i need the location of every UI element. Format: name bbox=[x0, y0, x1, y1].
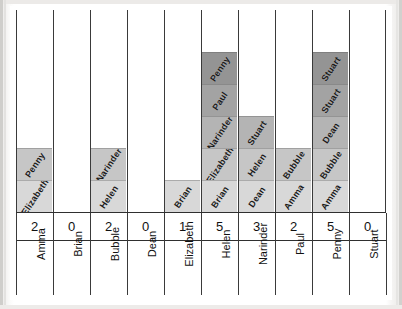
bar-segment[interactable]: Brian bbox=[165, 180, 200, 212]
category-label: Amma bbox=[35, 228, 47, 260]
bar-segment[interactable]: Paul bbox=[202, 84, 237, 116]
bar-segment[interactable]: Narinder bbox=[91, 148, 126, 180]
bar-stack: BrianElizabethNarinderPaulPenny bbox=[202, 52, 237, 212]
plot-area: ElizabethPennyHelenNarinderBrianBrianEli… bbox=[16, 10, 386, 212]
bar-segment-label: Penny bbox=[23, 150, 47, 179]
bar-segment[interactable]: Penny bbox=[17, 148, 52, 180]
bar-segment-label: Bubble bbox=[280, 149, 306, 180]
bar-segment[interactable]: Elizabeth bbox=[202, 148, 237, 180]
bar-segment-label: Helen bbox=[97, 183, 120, 210]
bar-segment[interactable]: Penny bbox=[202, 52, 237, 84]
category-label: Bubble bbox=[109, 227, 121, 261]
bar-segment[interactable]: Helen bbox=[91, 180, 126, 212]
bar-segment-label: Dean bbox=[320, 120, 341, 145]
bar-column[interactable]: BrianElizabethNarinderPaulPenny bbox=[201, 10, 238, 212]
counts-divider bbox=[386, 213, 387, 240]
category-cell[interactable]: Elizabeth bbox=[164, 240, 201, 298]
stacked-bar-chart: ElizabethPennyHelenNarinderBrianBrianEli… bbox=[10, 6, 392, 300]
category-cell[interactable]: Bubble bbox=[90, 240, 127, 298]
column-divider bbox=[385, 10, 386, 212]
bar-column[interactable]: AmmaBubble bbox=[275, 10, 312, 212]
bar-segment-label: Helen bbox=[245, 151, 268, 178]
bar-stack: AmmaBubbleDeanStuartStuart bbox=[313, 52, 348, 212]
bar-segment[interactable]: Helen bbox=[239, 148, 274, 180]
screenshot-page: ElizabethPennyHelenNarinderBrianBrianEli… bbox=[0, 0, 402, 309]
bar-segment-label: Amma bbox=[318, 182, 342, 211]
category-label: Stuart bbox=[368, 229, 380, 258]
category-label: Elizabeth bbox=[183, 221, 195, 266]
bar-column[interactable]: ElizabethPenny bbox=[16, 10, 53, 212]
bar-segment[interactable]: Stuart bbox=[313, 84, 348, 116]
bar-segment-label: Stuart bbox=[319, 54, 343, 82]
category-cell[interactable]: Helen bbox=[201, 240, 238, 298]
category-cell[interactable]: Paul bbox=[275, 240, 312, 298]
bar-segment-label: Narinder bbox=[205, 116, 235, 148]
scan-edge-top bbox=[0, 0, 402, 4]
category-cell[interactable]: Dean bbox=[127, 240, 164, 298]
category-cell[interactable]: Amma bbox=[16, 240, 53, 298]
bar-segment[interactable]: Dean bbox=[239, 180, 274, 212]
bar-segment-label: Elizabeth bbox=[204, 148, 235, 180]
bar-segment[interactable]: Bubble bbox=[276, 148, 311, 180]
bar-segment[interactable]: Stuart bbox=[239, 116, 274, 148]
bar-segment[interactable]: Narinder bbox=[202, 116, 237, 148]
category-label: Brian bbox=[72, 231, 84, 257]
bar-column[interactable]: Brian bbox=[164, 10, 201, 212]
category-label: Narinder bbox=[257, 223, 269, 265]
bar-segment-label: Stuart bbox=[319, 86, 343, 114]
bar-column[interactable]: AmmaBubbleDeanStuartStuart bbox=[312, 10, 349, 212]
bar-segment[interactable]: Dean bbox=[313, 116, 348, 148]
column-divider bbox=[349, 10, 350, 212]
scan-edge-bottom bbox=[0, 305, 402, 309]
bar-column[interactable]: DeanHelenStuart bbox=[238, 10, 275, 212]
bar-stack: HelenNarinder bbox=[91, 148, 126, 212]
bar-column[interactable] bbox=[127, 10, 164, 212]
category-cell[interactable]: Narinder bbox=[238, 240, 275, 298]
scan-edge-left-inner bbox=[4, 0, 6, 309]
bar-segment-label: Brian bbox=[209, 184, 231, 210]
bar-column[interactable] bbox=[349, 10, 386, 212]
category-label: Paul bbox=[294, 233, 306, 255]
bar-segment[interactable]: Bubble bbox=[313, 148, 348, 180]
category-label: Dean bbox=[146, 231, 158, 257]
column-divider bbox=[53, 10, 54, 212]
category-cell[interactable]: Penny bbox=[312, 240, 349, 298]
bar-segment-label: Elizabeth bbox=[19, 180, 50, 212]
column-divider bbox=[127, 10, 128, 212]
bar-segment-label: Dean bbox=[246, 184, 267, 209]
bar-stack: Brian bbox=[165, 180, 200, 212]
category-cell[interactable]: Stuart bbox=[349, 240, 386, 298]
bar-segment[interactable]: Elizabeth bbox=[17, 180, 52, 212]
category-label: Penny bbox=[331, 228, 343, 259]
category-divider bbox=[386, 240, 387, 295]
bar-segment-label: Narinder bbox=[94, 148, 124, 180]
bar-stack: AmmaBubble bbox=[276, 148, 311, 212]
bar-segment-label: Paul bbox=[210, 89, 229, 111]
bar-column[interactable]: HelenNarinder bbox=[90, 10, 127, 212]
bar-segment[interactable]: Stuart bbox=[313, 52, 348, 84]
bar-segment-label: Stuart bbox=[245, 118, 269, 146]
bar-segment-label: Penny bbox=[208, 54, 232, 83]
bar-stack: ElizabethPenny bbox=[17, 148, 52, 212]
scan-edge-right-inner bbox=[396, 0, 398, 309]
bar-column[interactable] bbox=[53, 10, 90, 212]
bar-segment[interactable]: Brian bbox=[202, 180, 237, 212]
bar-segment-label: Bubble bbox=[317, 149, 343, 180]
bar-segment-label: Amma bbox=[281, 182, 305, 211]
bar-segment[interactable]: Amma bbox=[276, 180, 311, 212]
bar-segment[interactable]: Amma bbox=[313, 180, 348, 212]
category-cell[interactable]: Brian bbox=[53, 240, 90, 298]
scan-edge-left bbox=[0, 0, 3, 309]
bar-stack: DeanHelenStuart bbox=[239, 116, 274, 212]
category-label: Helen bbox=[220, 230, 232, 259]
category-label-row: AmmaBrianBubbleDeanElizabethHelenNarinde… bbox=[16, 240, 386, 298]
bar-segment-label: Brian bbox=[172, 184, 194, 210]
